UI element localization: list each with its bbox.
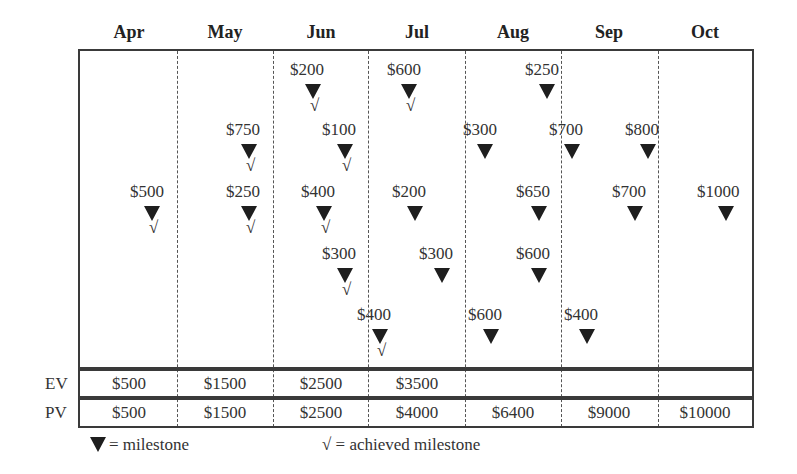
milestone-amount: $600	[468, 306, 502, 324]
achieved-checkmark-icon: √	[246, 158, 255, 174]
pv-cell-jul: $4000	[369, 403, 465, 423]
achieved-checkmark-icon: √	[321, 220, 330, 236]
milestone-triangle-icon	[531, 268, 547, 283]
milestone-triangle-icon	[90, 437, 106, 452]
milestone-amount: $400	[301, 183, 335, 201]
milestone-triangle-icon	[407, 206, 423, 221]
achieved-checkmark-icon: √	[406, 98, 415, 114]
milestone-amount: $600	[516, 245, 550, 263]
month-header-jul: Jul	[369, 22, 465, 43]
milestone-triangle-icon	[531, 206, 547, 221]
pv-cell-aug: $6400	[465, 403, 561, 423]
milestone-amount: $500	[130, 183, 164, 201]
month-header-jun: Jun	[273, 22, 369, 43]
ev-cell-apr: $500	[81, 374, 177, 394]
milestone-amount: $600	[387, 61, 421, 79]
month-header-oct: Oct	[657, 22, 753, 43]
pv-cell-apr: $500	[81, 403, 177, 423]
pv-cell-sep: $9000	[561, 403, 657, 423]
achieved-checkmark-icon: √	[246, 220, 255, 236]
month-header-sep: Sep	[561, 22, 657, 43]
legend-achieved: √ = achieved milestone	[322, 435, 480, 455]
milestone-triangle-icon	[640, 144, 656, 159]
ev-cell-jun: $2500	[273, 374, 369, 394]
month-header-apr: Apr	[81, 22, 177, 43]
milestone-amount: $300	[463, 121, 497, 139]
milestone-amount: $800	[625, 121, 659, 139]
milestone-amount: $400	[564, 306, 598, 324]
milestone-amount: $400	[357, 306, 391, 324]
milestone-triangle-icon	[627, 206, 643, 221]
milestone-amount: $200	[392, 183, 426, 201]
achieved-checkmark-icon: √	[342, 158, 351, 174]
milestone-triangle-icon	[483, 329, 499, 344]
achieved-checkmark-icon: √	[310, 98, 319, 114]
milestone-amount: $200	[290, 61, 324, 79]
milestone-amount: $100	[322, 121, 356, 139]
achieved-checkmark-icon: √	[342, 282, 351, 298]
month-header-aug: Aug	[465, 22, 561, 43]
achieved-checkmark-icon: √	[149, 220, 158, 236]
pv-cell-oct: $10000	[657, 403, 753, 423]
pv-cell-may: $1500	[177, 403, 273, 423]
milestone-amount: $250	[226, 183, 260, 201]
milestone-amount: $1000	[697, 183, 740, 201]
milestone-amount: $650	[516, 183, 550, 201]
milestone-triangle-icon	[539, 84, 555, 99]
milestone-amount: $250	[525, 61, 559, 79]
ev-cell-jul: $3500	[369, 374, 465, 394]
milestone-amount: $750	[226, 121, 260, 139]
milestone-triangle-icon	[477, 144, 493, 159]
milestone-amount: $700	[612, 183, 646, 201]
milestone-amount: $300	[322, 245, 356, 263]
milestone-amount: $300	[419, 245, 453, 263]
legend-milestone: = milestone	[90, 435, 189, 455]
milestone-amount: $700	[549, 121, 583, 139]
milestone-triangle-icon	[564, 144, 580, 159]
ev-cell-may: $1500	[177, 374, 273, 394]
milestone-triangle-icon	[434, 268, 450, 283]
checkmark-icon: √	[322, 435, 331, 454]
milestone-triangle-icon	[579, 329, 595, 344]
milestone-triangle-icon	[718, 206, 734, 221]
month-header-may: May	[177, 22, 273, 43]
ev-row-label: EV	[45, 374, 68, 394]
legend-achieved-text: = achieved milestone	[336, 435, 481, 454]
pv-row-label: PV	[45, 403, 67, 423]
pv-cell-jun: $2500	[273, 403, 369, 423]
achieved-checkmark-icon: √	[377, 343, 386, 359]
legend-milestone-text: = milestone	[109, 435, 189, 454]
